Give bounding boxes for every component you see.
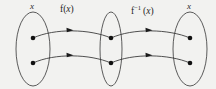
inverse-exponent: −1 [134,4,141,11]
range-set-ellipse [173,12,207,86]
diagram-canvas [0,0,216,89]
forward-map-curve-lower [33,56,111,63]
codomain-element-dot-1 [109,36,114,41]
domain-element-dot-1 [31,36,36,41]
inverse-map-label: f−1(x) [131,5,154,17]
forward-map-curve-upper [33,31,111,38]
forward-arrowhead-upper [67,28,74,32]
codomain-set-ellipse [100,12,122,86]
forward-map-variable: x [66,4,70,14]
inverse-map-curve-upper [111,31,190,38]
codomain-element-dot-2 [109,61,114,66]
domain-set-ellipse [16,12,50,86]
range-element-dot-2 [188,61,193,66]
forward-map-label: f(x) [60,5,74,15]
range-element-dot-1 [188,36,193,41]
range-set-label: x [187,2,191,11]
inverse-arrowhead-upper [146,28,153,32]
forward-arrowhead-lower [67,53,74,57]
inverse-map-variable: x [146,6,150,16]
inverse-map-curve-lower [111,56,190,63]
domain-element-dot-2 [31,61,36,66]
inverse-arrowhead-lower [146,53,153,57]
function-inverse-diagram: x x f(x) f−1(x) [0,0,216,89]
domain-set-label: x [30,2,34,11]
